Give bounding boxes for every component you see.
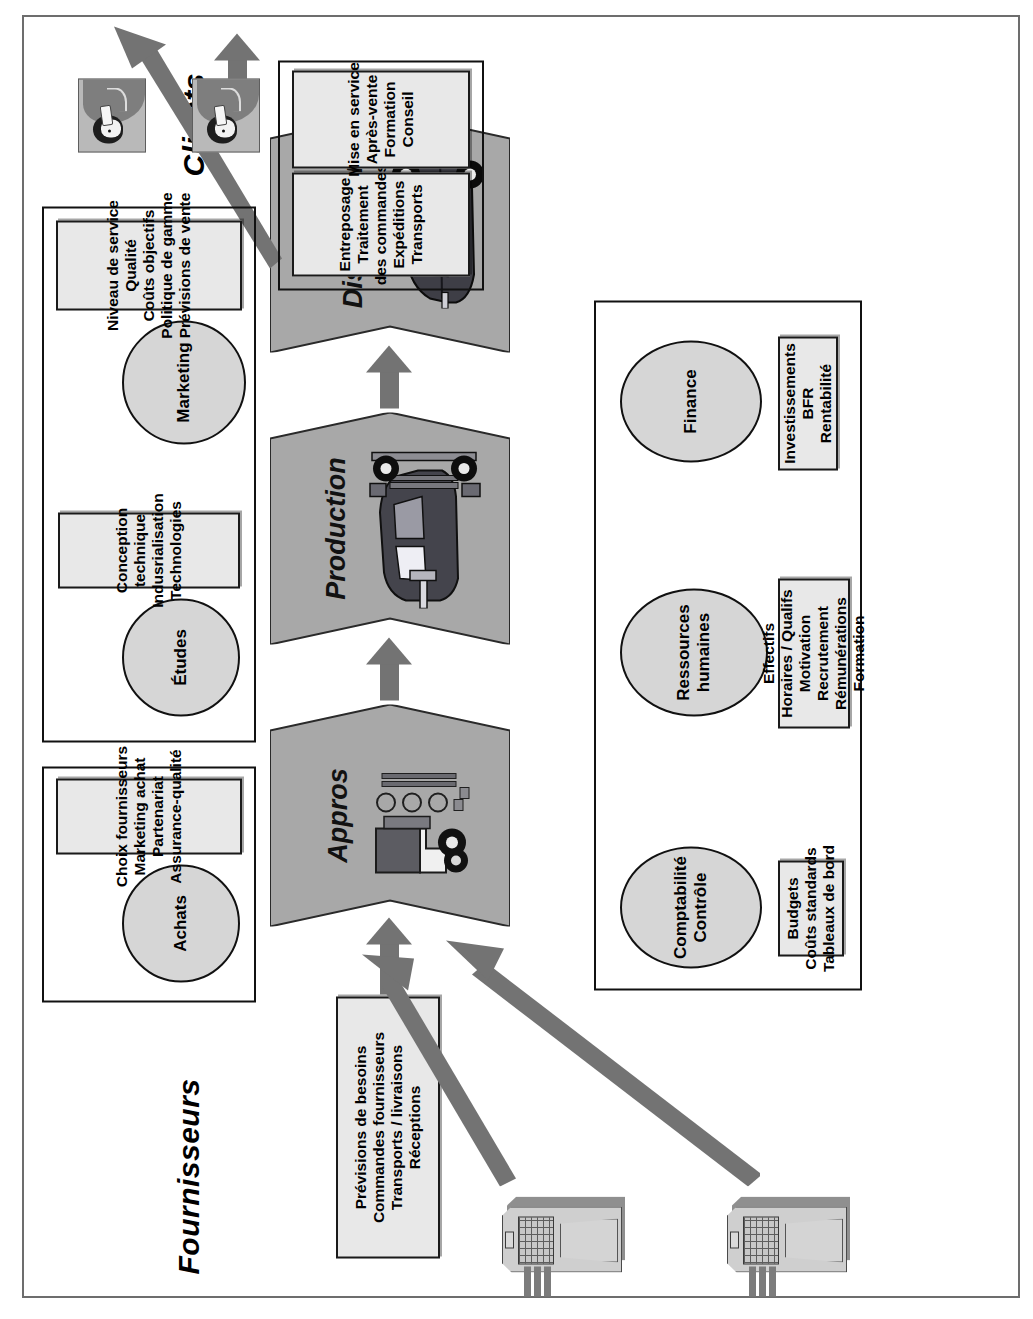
process-appros[interactable]: Appros — [270, 704, 510, 926]
comptabilite-line-1: Budgets — [784, 877, 802, 939]
ellipse-achats-label: Achats — [171, 895, 191, 952]
distribution-line-5: Transports — [408, 184, 426, 264]
achats-line-2: Marketing achat — [131, 757, 149, 875]
finance-detail-box: Investissements BFR Rentabilité — [778, 336, 838, 470]
after-sales-activities-box: Mise en service Après-vente Formation Co… — [292, 70, 470, 168]
ressources-humaines-detail-box: Effectifs Horaires / Qualifs Motivation … — [778, 578, 850, 728]
client-person-icon-1 — [192, 78, 260, 152]
aftersales-line-2: Après-vente — [363, 74, 381, 164]
ellipse-marketing[interactable]: Marketing — [122, 320, 246, 444]
truck-parts-icon — [370, 748, 482, 878]
achats-line-4: Assurance-qualité — [167, 749, 185, 883]
ellipse-etudes-label: Études — [171, 629, 191, 686]
rh-line-1: Effectifs — [760, 622, 778, 683]
distribution-activities-box: Entreposage Traitement des commandes Exp… — [292, 172, 470, 276]
aftersales-line-3: Formation — [381, 81, 399, 157]
value-chain-canvas: Fournisseurs Clients Prévisions de besoi… — [22, 15, 1020, 1298]
rh-line-6: Formation — [850, 615, 868, 691]
process-appros-label: Appros — [324, 704, 353, 926]
ellipse-comptabilite[interactable]: Comptabilité Contrôle — [620, 846, 762, 968]
marketing-detail-box: Niveau de service Qualité Coûts objectif… — [56, 220, 242, 310]
client-person-icon-2 — [78, 78, 146, 152]
process-production-label: Production — [322, 412, 351, 644]
distribution-line-1: Entreposage — [336, 177, 354, 271]
ellipse-rh-label: Ressources humaines — [674, 604, 713, 700]
car-assembly-icon — [366, 448, 486, 608]
comptabilite-line-2: Coûts standards — [802, 847, 820, 969]
rh-line-3: Motivation — [796, 614, 814, 692]
rh-line-5: Rémunérations — [832, 597, 850, 710]
aftersales-line-1: Mise en service — [345, 62, 363, 177]
supplier-factory-icon-2 — [727, 1186, 852, 1282]
etudes-line-1: Conception — [113, 507, 131, 592]
distribution-line-2: Traitement — [354, 185, 372, 263]
process-production[interactable]: Production — [270, 412, 510, 644]
ellipse-ressources-humaines[interactable]: Ressources humaines — [620, 588, 768, 716]
achats-detail-box: Choix fournisseurs Marketing achat Parte… — [56, 778, 242, 854]
page-border: Fournisseurs Clients Prévisions de besoi… — [22, 15, 1020, 1298]
achats-line-3: Partenariat — [149, 776, 167, 857]
etudes-line-2: technique — [131, 513, 149, 586]
comptabilite-line-3: Tableaux de bord — [820, 844, 838, 971]
ellipse-marketing-label: Marketing — [174, 342, 194, 422]
ellipse-etudes[interactable]: Études — [122, 598, 240, 716]
aftersales-line-4: Conseil — [399, 91, 417, 147]
ellipse-comptabilite-label: Comptabilité Contrôle — [671, 856, 710, 959]
achats-line-1: Choix fournisseurs — [113, 745, 131, 886]
etudes-line-4: Technologies — [167, 501, 185, 600]
finance-line-1: Investissements — [781, 343, 799, 464]
marketing-line-4: Politique de gamme — [158, 192, 176, 338]
marketing-line-2: Qualité — [122, 239, 140, 292]
supplier-factory-icon-1 — [502, 1186, 627, 1282]
marketing-line-5: Prévisions de vente — [176, 192, 194, 338]
distribution-line-3: des commandes — [372, 163, 390, 284]
rh-line-4: Recrutement — [814, 606, 832, 701]
rh-line-2: Horaires / Qualifs — [778, 589, 796, 717]
etudes-line-3: Indusrialisation — [149, 493, 167, 608]
title-fournisseurs: Fournisseurs — [172, 1078, 206, 1274]
finance-line-2: BFR — [799, 387, 817, 419]
marketing-line-3: Coûts objectifs — [140, 209, 158, 321]
distribution-line-4: Expéditions — [390, 180, 408, 268]
marketing-line-1: Niveau de service — [104, 200, 122, 331]
finance-line-3: Rentabilité — [817, 363, 835, 442]
ellipse-finance-label: Finance — [681, 369, 701, 433]
comptabilite-detail-box: Budgets Coûts standards Tableaux de bord — [778, 860, 844, 956]
diagram-page: Fournisseurs Clients Prévisions de besoi… — [0, 0, 1033, 1319]
ellipse-finance[interactable]: Finance — [620, 340, 762, 462]
etudes-detail-box: Conception technique Indusrialisation Te… — [58, 512, 240, 588]
